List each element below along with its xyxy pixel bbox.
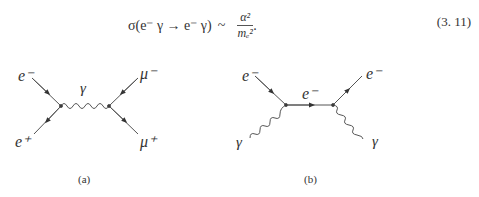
caption-b: (b) xyxy=(304,173,317,185)
feynman-diagrams xyxy=(0,0,479,197)
label-b-gamma-out: γ xyxy=(372,133,378,150)
photon-out xyxy=(333,105,363,139)
label-a-mu-minus: μ⁻ xyxy=(140,64,156,83)
photon-in xyxy=(250,105,286,138)
label-a-e-plus: e⁺ xyxy=(15,132,30,151)
label-b-gamma-in: γ xyxy=(236,134,242,151)
label-a-gamma: γ xyxy=(80,80,86,97)
label-a-e-minus: e⁻ xyxy=(18,66,33,85)
label-b-e-in: e⁻ xyxy=(242,66,257,85)
label-a-mu-plus: μ⁺ xyxy=(140,132,156,151)
photon-propagator xyxy=(61,104,109,109)
caption-a: (a) xyxy=(78,173,90,185)
label-b-e-propagator: e⁻ xyxy=(302,84,317,103)
label-b-e-out: e⁻ xyxy=(366,64,381,83)
